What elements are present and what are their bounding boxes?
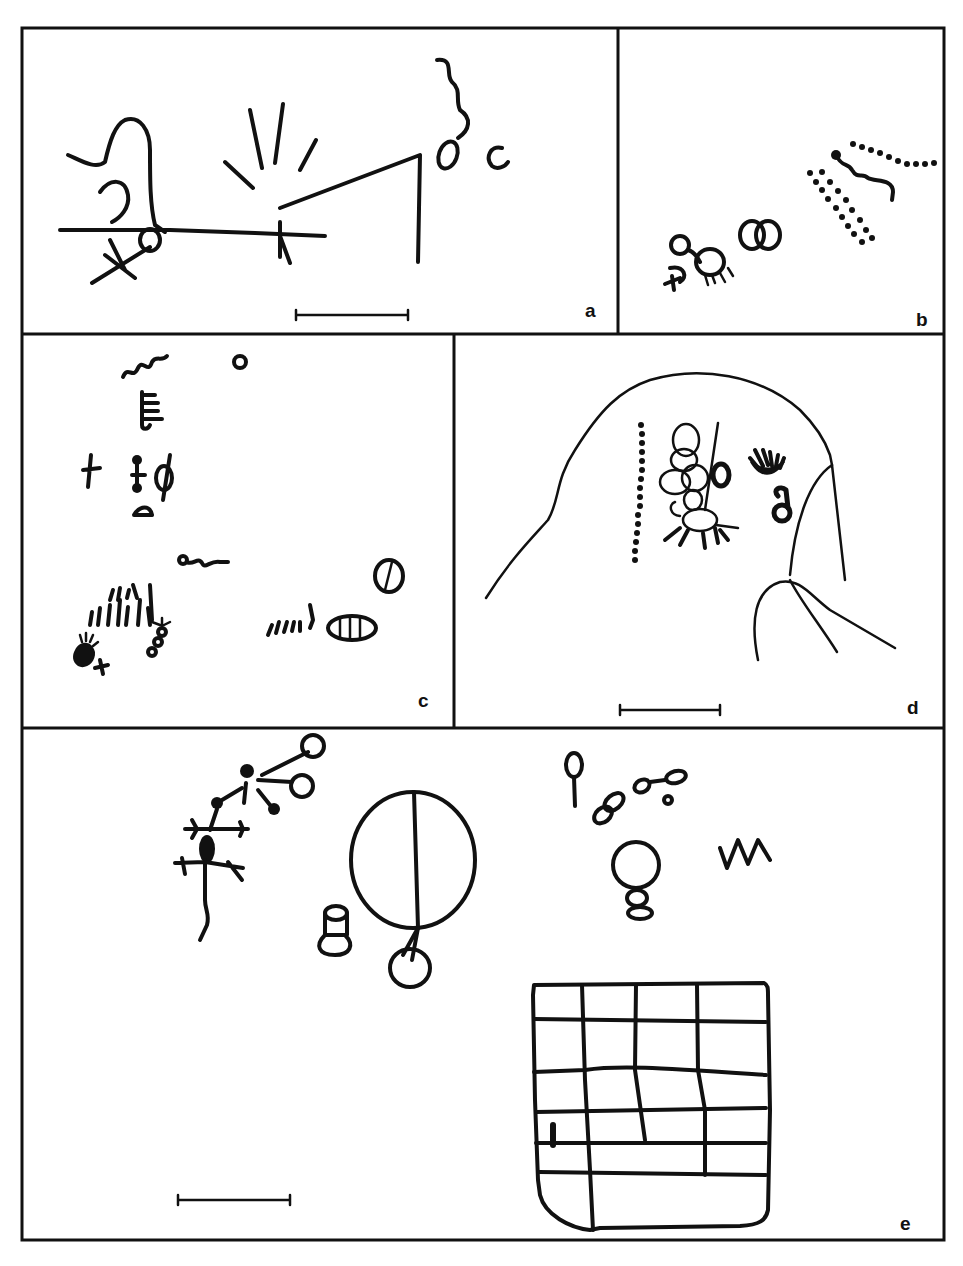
scale-bar-e	[22, 728, 944, 1240]
scale-bar-a	[22, 28, 618, 334]
panel-a: a	[22, 28, 618, 334]
panel-label-a: a	[585, 301, 596, 320]
panel-e: e	[22, 728, 944, 1240]
panel-label-e: e	[900, 1214, 911, 1233]
panel-c-drawing	[22, 334, 454, 728]
panel-b: b	[618, 28, 944, 334]
scale-bar-d	[454, 334, 944, 728]
panel-d: d	[454, 334, 944, 728]
panel-label-c: c	[418, 691, 429, 710]
panel-c: c	[22, 334, 454, 728]
panel-b-drawing	[618, 28, 944, 334]
petroglyph-figure: a	[0, 0, 963, 1266]
panel-label-d: d	[907, 698, 919, 717]
panel-label-b: b	[916, 310, 928, 329]
